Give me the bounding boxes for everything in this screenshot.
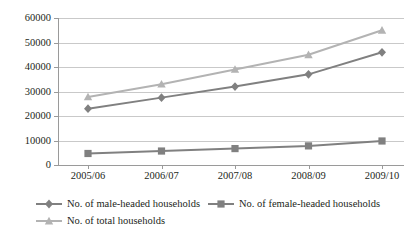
legend-item[interactable]: No. of total households: [36, 215, 165, 227]
y-axis-tick-label: 0: [0, 160, 51, 170]
x-axis-tick-label: 2007/08: [218, 170, 252, 182]
legend-marker-glyph: [44, 216, 54, 226]
data-point-marker: [158, 147, 165, 154]
y-axis-tickmark: [54, 116, 58, 117]
legend-marker-glyph: [44, 199, 54, 209]
x-axis-tick-label: 2006/07: [144, 170, 178, 182]
data-point-marker: [378, 137, 385, 144]
x-axis-tick-label: 2009/10: [365, 170, 399, 182]
legend-label: No. of total households: [67, 215, 165, 227]
y-axis-tick-label: 60000: [0, 13, 51, 23]
series-2: [84, 137, 385, 157]
x-axis-tick-labels: 2005/062006/072007/082008/092009/10: [58, 170, 404, 186]
data-point-marker: [378, 48, 386, 57]
y-axis-tickmark: [54, 92, 58, 93]
legend-item[interactable]: No. of male-headed households: [36, 198, 200, 210]
x-axis-tickmark: [309, 165, 310, 169]
y-axis-tickmark: [54, 165, 58, 166]
series-plot: [58, 18, 404, 165]
data-point-marker: [378, 26, 386, 34]
data-point-marker: [158, 93, 166, 102]
legend-marker-square-icon: [208, 199, 234, 209]
y-axis-tick-label: 30000: [0, 87, 51, 97]
x-axis-line: [58, 165, 404, 166]
data-point-marker: [84, 104, 92, 113]
chart-legend: No. of male-headed householdsNo. of fema…: [0, 198, 404, 238]
y-axis-tickmark: [54, 141, 58, 142]
x-axis-tickmark: [162, 165, 163, 169]
y-axis-tick-label: 40000: [0, 62, 51, 72]
data-point-marker: [231, 82, 239, 91]
legend-label: No. of male-headed households: [67, 198, 200, 210]
plot-area: [58, 18, 404, 165]
legend-marker-diamond-icon: [36, 199, 62, 209]
legend-item[interactable]: No. of female-headed households: [208, 198, 380, 210]
y-axis-tick-label: 20000: [0, 111, 51, 121]
x-axis-tickmark: [382, 165, 383, 169]
y-axis-tickmark: [54, 43, 58, 44]
chart-container: 0100002000030000400005000060000 2005/062…: [0, 0, 404, 241]
data-point-marker: [45, 217, 53, 225]
x-axis-tickmark: [88, 165, 89, 169]
data-point-marker: [305, 70, 313, 79]
data-point-marker: [45, 200, 53, 209]
x-axis-tick-label: 2008/09: [291, 170, 325, 182]
data-point-marker: [217, 200, 224, 207]
x-axis-tick-label: 2005/06: [71, 170, 105, 182]
y-axis-tickmark: [54, 67, 58, 68]
x-axis-tickmark: [235, 165, 236, 169]
legend-marker-glyph: [216, 199, 226, 209]
legend-label: No. of female-headed households: [239, 198, 380, 210]
data-point-marker: [305, 142, 312, 149]
series-line: [88, 52, 382, 108]
series-1: [84, 48, 386, 113]
y-axis-tickmark: [54, 18, 58, 19]
y-axis-tick-label: 50000: [0, 38, 51, 48]
y-axis-tick-label: 10000: [0, 136, 51, 146]
data-point-marker: [84, 150, 91, 157]
legend-marker-triangle-icon: [36, 216, 62, 226]
data-point-marker: [231, 145, 238, 152]
